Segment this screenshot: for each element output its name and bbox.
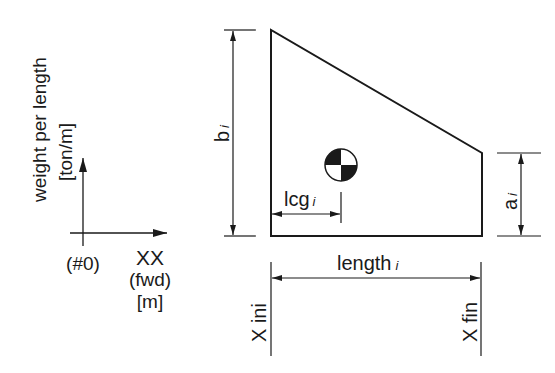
b-label-text: b [211,131,233,142]
length-label: lengthi [337,252,400,274]
x-axis-label: XX [136,246,164,269]
dimension-length: lengthi X ini X fin [248,252,481,356]
y-axis-unit: [ton/m] [55,123,76,181]
lcg-label-subscript: i [313,194,317,209]
x-axis-unit: [m] [137,291,163,312]
a-label: ai [499,192,521,210]
weight-distribution-diagram: weight per length [ton/m] (#0) XX (fwd) … [0,0,555,373]
length-label-text: length [337,252,392,274]
lcg-label: lcgi [284,188,317,210]
y-axis-label: weight per length [29,57,50,203]
a-label-text: a [499,198,521,210]
length-label-subscript: i [396,258,400,273]
dimension-lcg: lcgi [272,188,341,223]
dimension-b: bi [211,30,256,236]
x-fin-label: X fin [459,302,481,342]
lcg-label-text: lcg [284,188,310,210]
center-of-gravity-icon [325,149,357,181]
b-label-subscript: i [217,124,232,128]
coordinate-axes: weight per length [ton/m] (#0) XX (fwd) … [29,57,171,312]
origin-label: (#0) [66,253,100,274]
a-label-subscript: i [505,192,520,196]
b-label: bi [211,124,233,142]
x-axis-direction: (fwd) [129,269,171,290]
dimension-a: ai [497,153,541,236]
x-ini-label: X ini [248,303,270,342]
